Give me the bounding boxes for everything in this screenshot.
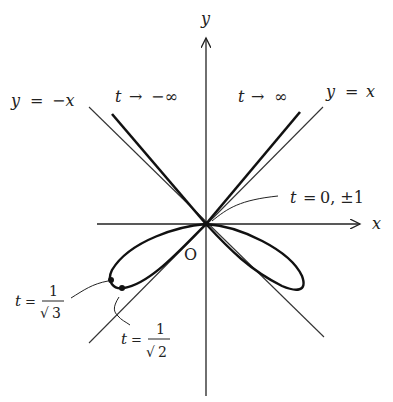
label-value: ∞ [274,87,287,106]
label-eq: = [303,188,316,207]
label-numerator: 1 [156,321,165,337]
label-radical: √ [146,344,155,360]
label-y-equals-minus-x-lhs: y [10,91,21,110]
label-t-origin: t = 0, ±1 [290,188,364,207]
label-y-equals-x-rhs: x [366,82,375,101]
label-value: −∞ [151,87,178,106]
leader-t-inv-sqrt2 [114,297,130,325]
point-t-inv-sqrt3 [108,277,114,283]
label-y-equals-minus-x: y = −x [10,91,74,110]
label-t-var: t [238,87,245,106]
label-eq: = [25,294,36,309]
label-t-inv-sqrt2: t = 1 √ 2 [121,321,170,360]
origin-point [204,222,209,227]
curve-branch-t-to-minus-infinity [112,114,206,224]
label-arrow: → [129,87,142,106]
label-t-to-infinity: t → ∞ [238,87,287,106]
label-t-inv-sqrt3: t = 1 √ 3 [15,283,64,321]
label-y-equals-x-eq: = [345,82,358,101]
label-value: 0, ±1 [320,188,364,207]
curve-right-loop [206,224,304,290]
label-radical: √ [40,305,49,321]
label-y-equals-x-lhs: y [325,82,336,101]
parametric-curve-diagram: y x O y = −x y = x t → −∞ t → ∞ t = 0, ±… [0,0,393,402]
label-t-var: t [121,330,128,348]
label-y-equals-minus-x-rhs: −x [52,91,74,110]
label-y-equals-x: y = x [325,82,375,101]
point-t-inv-sqrt2 [119,285,125,291]
curve-branch-t-to-infinity [206,112,300,224]
label-t-var: t [15,292,22,310]
label-t-var: t [115,87,122,106]
label-numerator: 1 [49,283,58,299]
y-axis-label: y [200,9,211,28]
leader-t-inv-sqrt3 [71,281,108,298]
origin-label: O [184,245,197,264]
label-arrow: → [251,87,264,106]
label-denominator: 3 [52,305,61,321]
label-t-to-minus-infinity: t → −∞ [115,87,178,106]
label-eq: = [131,332,142,347]
x-axis-label: x [372,214,381,233]
label-y-equals-minus-x-eq: = [30,91,43,110]
label-t-var: t [290,188,297,207]
label-denominator: 2 [158,344,167,360]
